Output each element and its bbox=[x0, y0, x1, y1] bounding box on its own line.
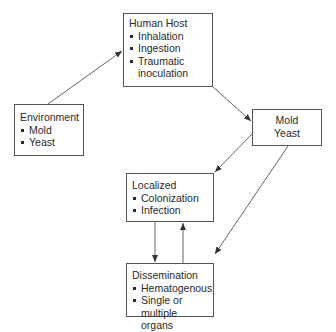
node-mold-yeast: Mold Yeast bbox=[252, 109, 322, 146]
list-item: Hematogenous bbox=[132, 282, 208, 295]
list-item: Mold bbox=[20, 124, 78, 137]
node-line: Mold bbox=[258, 114, 316, 127]
list-item: Inhalation bbox=[129, 30, 207, 43]
arrow-environment-to-human-host bbox=[48, 51, 122, 104]
node-dissemination: Dissemination Hematogenous Single or mul… bbox=[126, 263, 214, 317]
arrow-mold-yeast-to-localized bbox=[215, 134, 252, 172]
arrow-human-host-to-mold-yeast bbox=[213, 87, 251, 121]
arrow-mold-yeast-to-dissemination bbox=[215, 146, 288, 254]
node-title: Localized bbox=[132, 179, 208, 192]
node-human-host: Human Host Inhalation Ingestion Traumati… bbox=[123, 13, 213, 87]
list-item: Infection bbox=[132, 204, 208, 217]
node-title: Environment bbox=[20, 111, 78, 124]
list-item: Traumatic inoculation bbox=[129, 55, 198, 80]
node-title: Dissemination bbox=[132, 269, 208, 282]
list-item: Colonization bbox=[132, 192, 208, 205]
list-item: Ingestion bbox=[129, 42, 207, 55]
node-list: Hematogenous Single or multiple organs bbox=[132, 282, 208, 332]
node-line: Yeast bbox=[258, 127, 316, 140]
list-item: Yeast bbox=[20, 136, 78, 149]
node-list: Inhalation Ingestion Traumatic inoculati… bbox=[129, 30, 207, 80]
node-list: Colonization Infection bbox=[132, 192, 208, 217]
node-title: Human Host bbox=[129, 17, 207, 30]
list-item: Single or multiple organs bbox=[132, 294, 211, 332]
node-localized: Localized Colonization Infection bbox=[126, 173, 214, 222]
node-list: Mold Yeast bbox=[20, 124, 78, 149]
node-environment: Environment Mold Yeast bbox=[14, 104, 84, 156]
